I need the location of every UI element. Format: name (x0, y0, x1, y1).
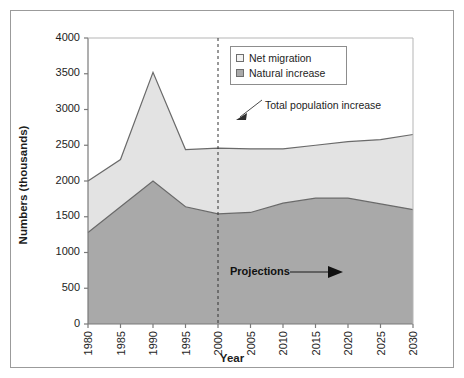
y-tick-label: 2000 (36, 174, 80, 186)
x-axis-title: Year (0, 352, 464, 364)
legend-swatch-net-migration (236, 54, 244, 62)
y-tick-label: 3000 (36, 102, 80, 114)
y-tick-label: 2500 (36, 138, 80, 150)
y-tick-label: 500 (36, 281, 80, 293)
annotation-total-population: Total population increase (265, 99, 381, 111)
chart-figure: Numbers (thousands) 05001000150020002500… (0, 0, 464, 378)
y-axis-title-wrap: Numbers (thousands) (12, 95, 34, 275)
y-tick-label: 0 (36, 317, 80, 329)
annotation-projections: Projections (230, 265, 290, 277)
legend-item-net-migration: Net migration (236, 50, 341, 65)
legend-label-net-migration: Net migration (249, 52, 311, 64)
y-tick-label: 1000 (36, 245, 80, 257)
y-tick-label: 1500 (36, 209, 80, 221)
legend-item-natural-increase: Natural increase (236, 65, 341, 80)
y-tick-label: 3500 (36, 66, 80, 78)
legend-swatch-natural-increase (236, 69, 244, 77)
y-axis-title: Numbers (thousands) (17, 126, 29, 245)
chart-legend: Net migration Natural increase (230, 46, 347, 85)
y-tick-label: 4000 (36, 31, 80, 43)
legend-label-natural-increase: Natural increase (249, 67, 325, 79)
